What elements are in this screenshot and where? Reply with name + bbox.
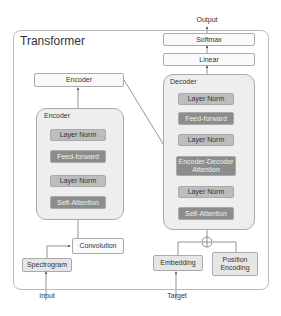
input-label: Input bbox=[34, 292, 60, 299]
decoder-layer-norm-3: Layer Norm bbox=[178, 186, 234, 198]
decoder-encoder-decoder-attention: Encoder-Decoder Attention bbox=[176, 156, 236, 176]
spectrogram-box: Spectrogram bbox=[22, 258, 72, 272]
diagram-title: Transformer bbox=[20, 34, 85, 48]
convolution-box: Convolution bbox=[72, 238, 124, 254]
encoder-layer-norm-bottom: Layer Norm bbox=[50, 175, 106, 187]
linear-box: Linear bbox=[163, 53, 255, 66]
decoder-layer-norm-2: Layer Norm bbox=[178, 134, 234, 146]
encoder-self-attention: Self-Attention bbox=[50, 196, 106, 209]
position-encoding-box: Position Encoding bbox=[212, 252, 258, 276]
decoder-layer-norm-1: Layer Norm bbox=[178, 93, 234, 105]
target-label: Target bbox=[162, 292, 192, 299]
decoder-self-attention: Self-Attention bbox=[178, 207, 234, 220]
encoder-feed-forward: Feed-forward bbox=[50, 150, 106, 163]
decoder-feed-forward: Feed-forward bbox=[178, 112, 234, 125]
encoder-layer-norm-top: Layer Norm bbox=[50, 129, 106, 141]
encoder-output-box: Encoder bbox=[34, 73, 124, 87]
decoder-container-label: Decoder bbox=[170, 78, 196, 85]
embedding-box: Embedding bbox=[153, 255, 203, 271]
softmax-box: Softmax bbox=[163, 33, 255, 46]
output-label: Output bbox=[192, 16, 222, 23]
encoder-container-label: Encoder bbox=[44, 112, 70, 119]
